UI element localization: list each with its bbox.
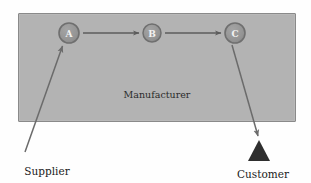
supply-chain-diagram: A B C Manufacturer Supplier Customer	[0, 0, 311, 183]
node-a-label: A	[65, 29, 74, 39]
node-b-label: B	[148, 29, 156, 39]
supplier-label: Supplier	[24, 165, 70, 177]
node-c[interactable]: C	[225, 23, 245, 43]
diagram-canvas: A B C Manufacturer Supplier Customer	[0, 0, 311, 183]
manufacturer-caption: Manufacturer	[124, 89, 191, 100]
customer-label: Customer	[237, 168, 290, 180]
node-c-label: C	[231, 29, 238, 39]
node-a[interactable]: A	[59, 23, 79, 43]
node-b[interactable]: B	[143, 24, 161, 42]
